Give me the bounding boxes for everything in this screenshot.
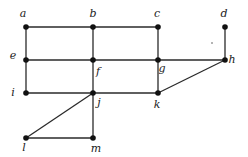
vertex-label-k: k <box>154 98 161 111</box>
vertex-e <box>23 57 29 63</box>
vertex-b <box>90 24 96 30</box>
edge-j-l <box>26 93 93 138</box>
vertex-label-f: f <box>95 65 102 78</box>
vertex-label-j: j <box>94 96 101 109</box>
vertex-label-i: i <box>11 86 15 99</box>
vertex-a <box>23 24 29 30</box>
vertex-label-h: h <box>228 53 235 66</box>
stray-mark <box>211 42 213 44</box>
labels-group: abcdefghijklm <box>10 7 236 155</box>
vertex-c <box>155 24 161 30</box>
vertex-label-e: e <box>10 49 17 62</box>
vertex-label-b: b <box>89 7 96 20</box>
vertex-label-d: d <box>220 7 227 20</box>
vertex-d <box>222 24 228 30</box>
edge-h-k <box>158 60 225 93</box>
graph-diagram: abcdefghijklm <box>0 0 248 157</box>
vertex-l <box>23 135 29 141</box>
vertex-label-g: g <box>158 62 165 75</box>
vertex-label-l: l <box>22 141 26 154</box>
vertex-m <box>90 135 96 141</box>
vertex-label-c: c <box>154 7 160 20</box>
vertex-j <box>90 90 96 96</box>
vertex-label-m: m <box>91 142 101 155</box>
vertex-k <box>155 90 161 96</box>
vertex-label-a: a <box>20 7 27 20</box>
edges-group <box>26 27 225 138</box>
vertex-h <box>222 57 228 63</box>
vertex-f <box>90 57 96 63</box>
vertex-i <box>23 90 29 96</box>
vertices-group <box>23 24 228 141</box>
